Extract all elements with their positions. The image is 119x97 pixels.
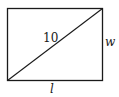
rectangle-diagram: 10 w l [0,0,119,97]
length-label: l [50,82,54,96]
diagonal-label: 10 [43,31,58,45]
width-label: w [105,35,116,49]
